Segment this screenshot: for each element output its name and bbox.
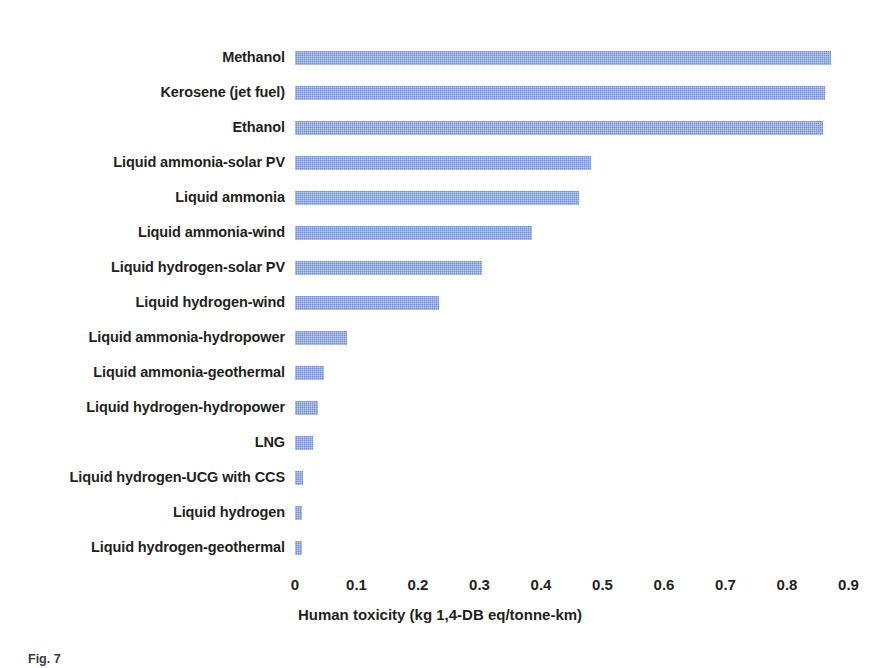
figure-container: MethanolKerosene (jet fuel)EthanolLiquid…	[0, 0, 896, 668]
category-label: Methanol	[0, 50, 285, 65]
bar	[295, 331, 347, 345]
bar-track	[295, 51, 886, 65]
category-label: Liquid ammonia-hydropower	[0, 330, 285, 345]
bar-track	[295, 226, 886, 240]
category-label: Ethanol	[0, 120, 285, 135]
bar-track	[295, 366, 886, 380]
x-tick-label: 0.8	[777, 576, 798, 594]
category-label: Liquid hydrogen	[0, 505, 285, 520]
bar-row: Kerosene (jet fuel)	[0, 75, 896, 110]
bar-track	[295, 86, 886, 100]
bar	[295, 261, 482, 275]
bar-track	[295, 506, 886, 520]
bar-chart: MethanolKerosene (jet fuel)EthanolLiquid…	[0, 0, 896, 600]
bar-rows: MethanolKerosene (jet fuel)EthanolLiquid…	[0, 40, 896, 565]
bar-track	[295, 541, 886, 555]
category-label: LNG	[0, 435, 285, 450]
category-label: Liquid hydrogen-geothermal	[0, 540, 285, 555]
bar-row: LNG	[0, 425, 896, 460]
bar	[295, 191, 579, 205]
bar-row: Liquid hydrogen-geothermal	[0, 530, 896, 565]
category-label: Liquid ammonia-wind	[0, 225, 285, 240]
x-tick-label: 0	[291, 576, 299, 594]
bar-row: Liquid ammonia-geothermal	[0, 355, 896, 390]
bar-track	[295, 261, 886, 275]
bar-track	[295, 191, 886, 205]
bar-row: Liquid hydrogen-wind	[0, 285, 896, 320]
bar-row: Methanol	[0, 40, 896, 75]
bar-row: Liquid hydrogen-UCG with CCS	[0, 460, 896, 495]
x-tick-label: 0.3	[469, 576, 490, 594]
bar	[295, 541, 302, 555]
figure-caption: Fig. 7	[28, 652, 878, 667]
bar-track	[295, 436, 886, 450]
x-axis-title-text: Human toxicity (kg 1,4-DB eq/tonne-km)	[298, 606, 582, 624]
category-label: Liquid ammonia	[0, 190, 285, 205]
bar-row: Liquid ammonia	[0, 180, 896, 215]
x-axis-ticks: 00.10.20.30.40.50.60.70.80.9	[0, 576, 896, 600]
bar-row: Liquid hydrogen-solar PV	[0, 250, 896, 285]
bar	[295, 86, 825, 100]
bar-row: Liquid hydrogen-hydropower	[0, 390, 896, 425]
bar	[295, 471, 303, 485]
bar-track	[295, 156, 886, 170]
bar-track	[295, 471, 886, 485]
x-tick-label: 0.4	[531, 576, 552, 594]
x-tick-label: 0.1	[346, 576, 367, 594]
x-tick-label: 0.5	[592, 576, 613, 594]
bar-row: Liquid ammonia-hydropower	[0, 320, 896, 355]
bar	[295, 296, 439, 310]
bar	[295, 401, 318, 415]
bar-row: Liquid ammonia-solar PV	[0, 145, 896, 180]
bar-track	[295, 121, 886, 135]
bar	[295, 436, 313, 450]
bar	[295, 506, 302, 520]
x-axis-title: Human toxicity (kg 1,4-DB eq/tonne-km)	[0, 606, 896, 624]
bar-row: Ethanol	[0, 110, 896, 145]
x-tick-label: 0.2	[408, 576, 429, 594]
category-label: Liquid hydrogen-UCG with CCS	[0, 470, 285, 485]
bar-track	[295, 401, 886, 415]
bar-row: Liquid hydrogen	[0, 495, 896, 530]
category-label: Liquid hydrogen-solar PV	[0, 260, 285, 275]
category-label: Liquid ammonia-geothermal	[0, 365, 285, 380]
bar	[295, 366, 324, 380]
bar	[295, 226, 532, 240]
category-label: Liquid hydrogen-hydropower	[0, 400, 285, 415]
x-tick-label: 0.7	[715, 576, 736, 594]
bar	[295, 156, 591, 170]
category-label: Kerosene (jet fuel)	[0, 85, 285, 100]
bar-track	[295, 296, 886, 310]
category-label: Liquid hydrogen-wind	[0, 295, 285, 310]
x-tick-label: 0.9	[838, 576, 859, 594]
caption-label: Fig. 7	[28, 652, 61, 666]
bar	[295, 51, 831, 65]
x-tick-label: 0.6	[654, 576, 675, 594]
bar-track	[295, 331, 886, 345]
category-label: Liquid ammonia-solar PV	[0, 155, 285, 170]
bar-row: Liquid ammonia-wind	[0, 215, 896, 250]
bar	[295, 121, 823, 135]
